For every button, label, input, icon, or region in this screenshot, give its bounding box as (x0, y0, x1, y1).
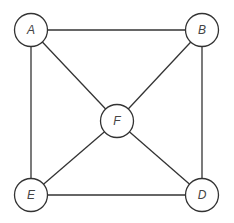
node-f: F (101, 105, 134, 138)
node-label: B (198, 23, 206, 37)
node-label: D (198, 188, 207, 202)
graph-diagram: ABFED (0, 0, 234, 223)
nodes-layer: ABFED (15, 14, 219, 212)
edge-b-f (117, 30, 202, 121)
node-a: A (15, 14, 48, 47)
node-label: F (113, 114, 121, 128)
edge-a-f (31, 30, 117, 121)
node-label: E (27, 188, 36, 202)
node-label: A (26, 23, 35, 37)
node-d: D (186, 179, 219, 212)
node-b: B (186, 14, 219, 47)
node-e: E (15, 179, 48, 212)
